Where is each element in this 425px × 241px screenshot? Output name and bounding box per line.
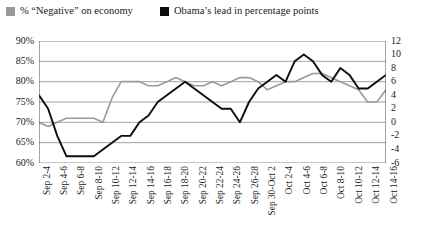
y-axis-right-tick-label: 12 [391, 36, 421, 46]
x-axis-tick-label: Sep 22-24 [216, 166, 225, 204]
x-axis-tick-label: Sep 8-10 [95, 166, 104, 200]
x-axis-labels: Sep 2-4Sep 4-6Sep 6-8Sep 8-10Sep 10-12Se… [0, 166, 425, 241]
plot-area [39, 41, 386, 163]
legend-item-negative-economy: % “Negative” on economy [6, 0, 133, 22]
y-axis-left-tick-label: 80% [0, 76, 34, 86]
x-axis-tick-label: Oct 12-14 [372, 166, 381, 204]
chart-legend: % “Negative” on economy Obama’s lead in … [0, 0, 425, 22]
y-axis-right-tick-label: 4 [391, 90, 421, 100]
chart-container: % “Negative” on economy Obama’s lead in … [0, 0, 425, 241]
x-axis-tick-label: Sep 26-28 [251, 166, 260, 204]
chart-svg [39, 41, 386, 163]
x-axis-tick-label: Sep 20-22 [199, 166, 208, 204]
x-axis-tick-label: Oct 14-16 [390, 166, 399, 204]
legend-item-obama-lead: Obama’s lead in percentage points [160, 0, 319, 22]
x-axis-tick-label: Sep 4-6 [60, 166, 69, 195]
x-axis-tick-label: Sep 2-4 [43, 166, 52, 195]
x-axis-tick-label: Sep 12-14 [129, 166, 138, 204]
x-axis-tick-label: Sep 16-18 [164, 166, 173, 204]
x-axis-tick-label: Sep 10-12 [112, 166, 121, 204]
y-axis-right-tick-label: 2 [391, 103, 421, 113]
legend-label-negative-economy: % “Negative” on economy [20, 6, 133, 17]
legend-swatch-gray-icon [6, 7, 15, 16]
y-axis-right-tick-label: 10 [391, 49, 421, 59]
legend-swatch-black-icon [160, 7, 169, 16]
x-axis-tick-label: Oct 10-12 [355, 166, 364, 204]
y-axis-right-tick-label: -2 [391, 130, 421, 140]
x-axis-tick-label: Sep 18-20 [181, 166, 190, 204]
y-axis-right-tick-label: 0 [391, 117, 421, 127]
y-axis-left-tick-label: 90% [0, 36, 34, 46]
y-axis-right-tick-label: 8 [391, 63, 421, 73]
y-axis-right-tick-label: -4 [391, 144, 421, 154]
x-axis-tick-label: Oct 4-6 [303, 166, 312, 194]
series-line-obama-lead [39, 55, 386, 157]
y-axis-left-tick-label: 75% [0, 97, 34, 107]
x-axis-tick-label: Oct 8-10 [337, 166, 346, 199]
y-axis-left-tick-label: 65% [0, 137, 34, 147]
y-axis-left-tick-label: 70% [0, 117, 34, 127]
y-axis-right-tick-label: 6 [391, 76, 421, 86]
x-axis-tick-label: Oct 2-4 [285, 166, 294, 194]
x-axis-tick-label: Sep 6-8 [77, 166, 86, 195]
y-axis-left-tick-label: 85% [0, 56, 34, 66]
x-axis-tick-label: Oct 6-8 [320, 166, 329, 194]
x-axis-tick-label: Sep 30-Oct 2 [268, 166, 277, 215]
x-axis-tick-label: Sep 14-16 [147, 166, 156, 204]
x-axis-tick-label: Sep 24-26 [233, 166, 242, 204]
legend-label-obama-lead: Obama’s lead in percentage points [174, 6, 319, 17]
